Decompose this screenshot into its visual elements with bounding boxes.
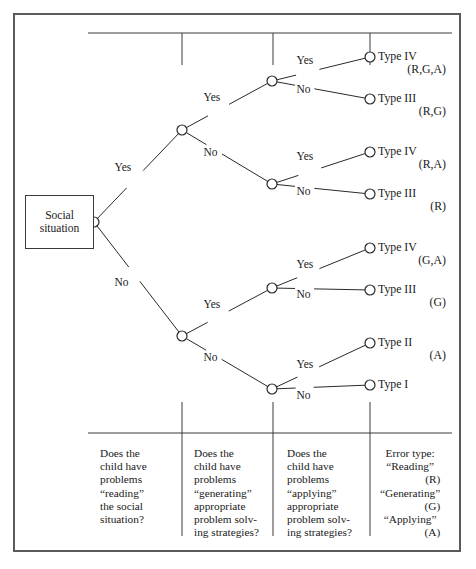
outcome-node-leaf4	[365, 189, 375, 199]
edge-label-r-no-to-rn-no: No	[202, 351, 219, 363]
decision-node-r-no	[177, 331, 187, 341]
leaf-code-label-leaf4: (R)	[378, 200, 446, 213]
edge-rn-no-to-leaf8-b	[314, 385, 365, 387]
outcome-node-leaf5	[365, 243, 375, 253]
edge-r-no-to-rn-yes-a	[186, 322, 207, 333]
caption-line: child have	[194, 460, 259, 473]
edge-root-to-r-yes-a	[97, 188, 126, 218]
edge-ry-yes-to-leaf2-b	[314, 89, 365, 98]
leaf-type-label-leaf5: Type IV	[378, 241, 417, 254]
caption-line: problems	[287, 473, 352, 486]
column-generating: Does thechild haveproblems“generating”ap…	[194, 447, 259, 539]
edge-r-no-to-rn-no-a	[186, 339, 206, 351]
caption-line: appropriate	[287, 500, 352, 513]
error-type-name: “Generating”	[380, 487, 440, 500]
edge-rn-yes-to-leaf5-b	[319, 250, 365, 269]
decision-node-ry-no	[267, 179, 277, 189]
edge-r-yes-to-ry-yes-a	[186, 116, 208, 128]
caption-line: ing strategies?	[287, 526, 352, 539]
edge-r-no-to-rn-yes-b	[229, 290, 268, 311]
decision-tree-figure: Social situation YesNoYesNoYesNoYesNoYes…	[0, 0, 476, 569]
outcome-node-leaf2	[365, 94, 375, 104]
outcome-node-leaf7	[365, 338, 375, 348]
caption-line: situation?	[100, 513, 147, 526]
error-type-name: “Applying”	[380, 513, 440, 526]
edge-label-ry-no-to-leaf3: Yes	[295, 150, 315, 162]
caption-line: problem solv-	[194, 513, 259, 526]
column-applying: Does thechild haveproblems“applying”appr…	[287, 447, 352, 539]
leaf-type-label-leaf4: Type III	[378, 187, 416, 200]
error-type-code: (R)	[380, 473, 440, 486]
caption-line: ing strategies?	[194, 526, 259, 539]
edge-label-r-yes-to-ry-no: No	[202, 146, 219, 158]
error-type-code: (G)	[380, 500, 440, 513]
caption-line: problems	[194, 473, 259, 486]
error-type-title: Error type:	[380, 447, 440, 460]
edge-label-rn-yes-to-leaf6: No	[295, 288, 312, 300]
edge-ry-no-to-leaf4-b	[314, 188, 365, 193]
edge-ry-yes-to-leaf2-a	[277, 82, 297, 86]
caption-line: child have	[287, 460, 352, 473]
edge-r-yes-to-ry-yes-b	[229, 83, 267, 104]
root-box-line2: situation	[40, 222, 80, 236]
caption-line: “applying”	[287, 487, 352, 500]
outcome-node-leaf8	[365, 380, 375, 390]
caption-line: child have	[100, 460, 147, 473]
outcome-node-leaf3	[365, 147, 375, 157]
edge-label-rn-no-to-leaf8: No	[295, 389, 312, 401]
edge-label-r-yes-to-ry-yes: Yes	[202, 91, 222, 103]
caption-line: Does the	[100, 447, 147, 460]
leaf-code-label-leaf5: (G,A)	[378, 254, 446, 267]
edge-label-root-to-r-no: No	[113, 276, 130, 288]
edge-rn-no-to-leaf7-a	[277, 377, 298, 387]
caption-line: problem solv-	[287, 513, 352, 526]
edge-r-yes-to-ry-no-a	[186, 133, 206, 145]
edge-rn-no-to-leaf7-b	[319, 345, 365, 367]
outcome-node-leaf6	[365, 285, 375, 295]
caption-line: “reading”	[100, 487, 147, 500]
root-box-line1: Social	[45, 209, 74, 223]
edge-root-to-r-yes-b	[143, 134, 178, 171]
decision-node-rn-yes	[267, 283, 277, 293]
edge-label-r-no-to-rn-yes: Yes	[202, 298, 222, 310]
caption-line: the social	[100, 500, 147, 513]
edges-group	[97, 58, 365, 389]
decision-node-r-yes	[177, 125, 187, 135]
edge-label-rn-yes-to-leaf5: Yes	[295, 258, 315, 270]
edge-r-yes-to-ry-no-b	[222, 154, 268, 181]
edge-rn-yes-to-leaf5-a	[277, 278, 298, 286]
column-error-type: Error type:“Reading”(R)“Generating”(G)“A…	[380, 447, 440, 539]
leaf-type-label-leaf8: Type I	[378, 378, 408, 391]
edge-ry-yes-to-leaf1-a	[277, 75, 296, 80]
leaf-code-label-leaf2: (R,G)	[378, 105, 446, 118]
leaf-type-label-leaf3: Type IV	[378, 145, 417, 158]
edge-ry-no-to-leaf4-a	[277, 185, 297, 187]
root-node-box: Social situation	[25, 195, 94, 249]
edge-rn-yes-to-leaf6-b	[314, 289, 365, 290]
edge-ry-yes-to-leaf1-b	[319, 58, 365, 69]
edge-label-ry-yes-to-leaf2: No	[295, 83, 312, 95]
edge-ry-no-to-leaf3-a	[277, 175, 299, 182]
edge-ry-no-to-leaf3-b	[321, 154, 365, 168]
caption-line: “generating”	[194, 487, 259, 500]
error-type-code: (A)	[380, 526, 440, 539]
edge-rn-no-to-leaf8-a	[277, 388, 296, 389]
column-reading: Does thechild haveproblems“reading”the s…	[100, 447, 147, 526]
caption-line: problems	[100, 473, 147, 486]
caption-line: Does the	[287, 447, 352, 460]
leaf-type-label-leaf6: Type III	[378, 283, 416, 296]
caption-line: Does the	[194, 447, 259, 460]
leaf-type-label-leaf2: Type III	[378, 92, 416, 105]
edge-root-to-r-no-a	[97, 226, 129, 267]
edge-label-ry-yes-to-leaf1: Yes	[295, 54, 315, 66]
leaf-type-label-leaf7: Type II	[378, 336, 412, 349]
edge-r-no-to-rn-no-b	[222, 359, 268, 386]
outcome-node-leaf1	[365, 52, 375, 62]
leaf-code-label-leaf3: (R,A)	[378, 158, 446, 171]
caption-line: appropriate	[194, 500, 259, 513]
leaf-code-label-leaf7: (A)	[378, 349, 446, 362]
edge-label-root-to-r-yes: Yes	[113, 161, 133, 173]
leaf-code-label-leaf6: (G)	[378, 296, 446, 309]
leaf-code-label-leaf1: (R,G,A)	[378, 63, 446, 76]
edge-label-rn-no-to-leaf7: Yes	[295, 358, 315, 370]
